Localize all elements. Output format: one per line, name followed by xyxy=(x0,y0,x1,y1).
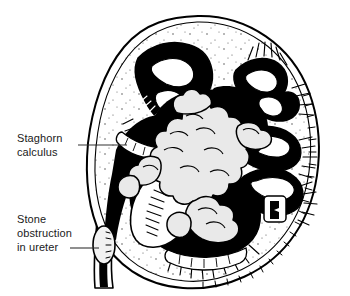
label-stone-line-2: obstruction xyxy=(17,226,72,240)
small-calyx xyxy=(264,196,286,222)
label-staghorn-calculus: Staghorn calculus xyxy=(17,131,62,159)
ureteric-stone xyxy=(93,226,115,264)
label-stone-obstruction: Stone obstruction in ureter xyxy=(17,212,72,254)
label-staghorn-line-1: Staghorn xyxy=(17,131,62,145)
label-stone-line-3: in ureter xyxy=(17,240,72,254)
label-stone-line-1: Stone xyxy=(17,212,72,226)
label-staghorn-line-2: calculus xyxy=(17,145,62,159)
